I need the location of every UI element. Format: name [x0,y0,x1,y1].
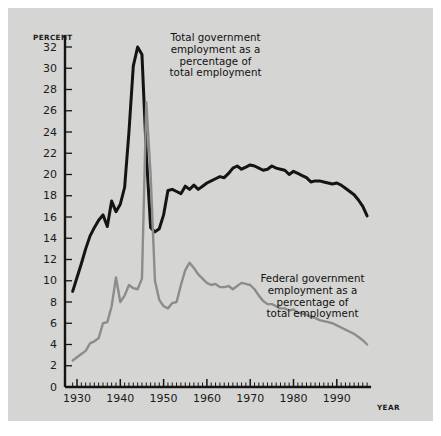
y-tick-30: 30 [31,63,57,74]
y-tick-32: 32 [31,42,57,53]
x-axis-title: YEAR [377,403,400,412]
annotation-federal-government: Federal government employment as a perce… [250,273,375,320]
y-tick-8: 8 [31,297,57,308]
y-tick-14: 14 [31,233,57,244]
x-tick-1980: 1980 [272,393,316,404]
y-tick-26: 26 [31,105,57,116]
y-tick-2: 2 [31,360,57,371]
annotation-total-government: Total government employment as a percent… [153,32,278,79]
y-tick-6: 6 [31,318,57,329]
chart-figure: PERCENT YEAR 024681012141618202224262830… [8,8,433,421]
y-tick-24: 24 [31,127,57,138]
x-tick-1970: 1970 [228,393,272,404]
y-tick-22: 22 [31,148,57,159]
y-tick-20: 20 [31,169,57,180]
x-tick-1930: 1930 [55,393,99,404]
x-tick-1960: 1960 [185,393,229,404]
x-tick-1990: 1990 [315,393,359,404]
y-tick-0: 0 [31,382,57,393]
y-tick-12: 12 [31,254,57,265]
y-tick-18: 18 [31,190,57,201]
y-tick-28: 28 [31,84,57,95]
y-tick-10: 10 [31,275,57,286]
x-tick-1940: 1940 [98,393,142,404]
y-tick-4: 4 [31,339,57,350]
y-tick-16: 16 [31,212,57,223]
series-total-government [73,47,367,291]
x-tick-1950: 1950 [142,393,186,404]
series-federal-government [73,102,367,360]
